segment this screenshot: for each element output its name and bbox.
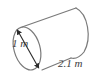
- length-label: 2.1 m: [58, 58, 82, 69]
- cylinder-top-edge: [22, 8, 76, 27]
- diameter-label: 1 m: [12, 38, 28, 49]
- cylinder-figure: 1 m 2.1 m: [0, 0, 97, 79]
- cylinder-right-cap-arc: [71, 8, 88, 58]
